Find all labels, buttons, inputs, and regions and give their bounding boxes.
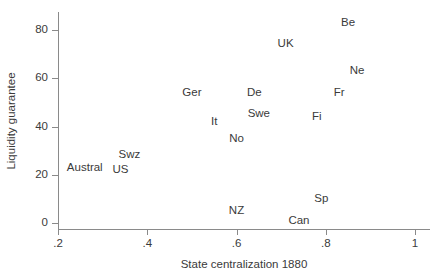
data-point-label: Ne xyxy=(350,65,365,77)
data-point-label: Sp xyxy=(314,193,328,205)
data-point-label: It xyxy=(211,116,217,128)
y-tick-label: 40 xyxy=(35,121,48,133)
data-point-label: Fr xyxy=(334,87,345,99)
x-tick-mark xyxy=(326,229,327,235)
x-tick-label: .2 xyxy=(53,238,63,250)
x-tick-mark xyxy=(237,229,238,235)
y-tick-mark xyxy=(52,78,58,79)
data-point-label: No xyxy=(229,133,244,145)
y-tick-label: 0 xyxy=(42,217,48,229)
x-axis-title: State centralization 1880 xyxy=(58,257,430,271)
data-point-label: US xyxy=(112,164,128,176)
y-axis-line xyxy=(58,12,59,230)
y-tick-mark xyxy=(52,30,58,31)
data-point-label: Ger xyxy=(182,87,201,99)
data-point-label: Can xyxy=(288,215,309,227)
x-tick-label: 1 xyxy=(412,238,418,250)
data-point-label: Swz xyxy=(119,150,141,162)
y-tick-mark xyxy=(52,127,58,128)
x-tick-label: .8 xyxy=(321,238,331,250)
x-tick-label: .6 xyxy=(232,238,242,250)
data-point-label: Fi xyxy=(312,111,322,123)
y-tick-mark xyxy=(52,223,58,224)
data-point-label: UK xyxy=(278,39,294,51)
x-tick-mark xyxy=(415,229,416,235)
x-axis-line xyxy=(58,229,430,230)
data-point-label: Austral xyxy=(67,162,103,174)
y-tick-label: 20 xyxy=(35,169,48,181)
data-point-label: De xyxy=(247,87,262,99)
y-tick-mark xyxy=(52,175,58,176)
data-point-label: Swe xyxy=(248,109,270,121)
x-tick-mark xyxy=(147,229,148,235)
y-tick-label: 80 xyxy=(35,24,48,36)
data-point-label: Be xyxy=(341,17,355,29)
y-tick-label: 60 xyxy=(35,72,48,84)
x-tick-label: .4 xyxy=(142,238,152,250)
y-axis-title: Liquidity guarantee xyxy=(3,12,19,230)
scatter-chart: 020406080 .2.4.6.81 Liquidity guarantee … xyxy=(0,0,435,280)
data-point-label: NZ xyxy=(229,205,244,217)
x-tick-mark xyxy=(58,229,59,235)
